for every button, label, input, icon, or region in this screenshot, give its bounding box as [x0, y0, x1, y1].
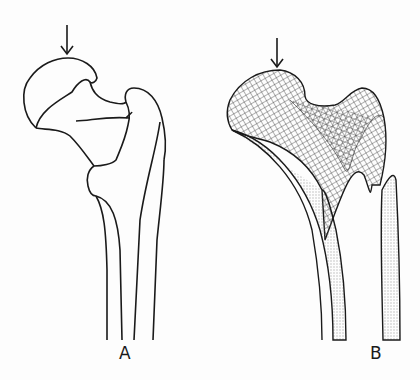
panel-label-a: A [119, 343, 131, 363]
figure: A B [0, 0, 420, 380]
panel-label-b: B [370, 343, 382, 363]
arrow-icon-a [61, 25, 73, 54]
arrow-icon-b [271, 38, 283, 67]
panel-b-drawing [227, 38, 400, 340]
panel-a-drawing [24, 25, 166, 340]
femur-diagram [0, 0, 420, 380]
